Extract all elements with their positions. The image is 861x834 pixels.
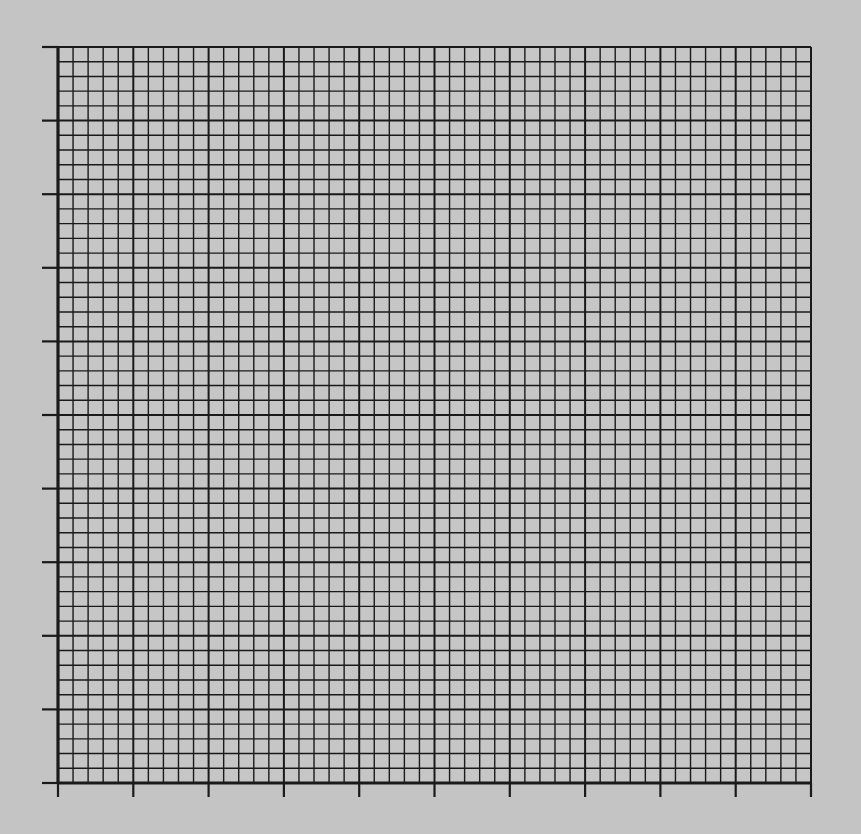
graph-paper-grid bbox=[0, 0, 861, 834]
